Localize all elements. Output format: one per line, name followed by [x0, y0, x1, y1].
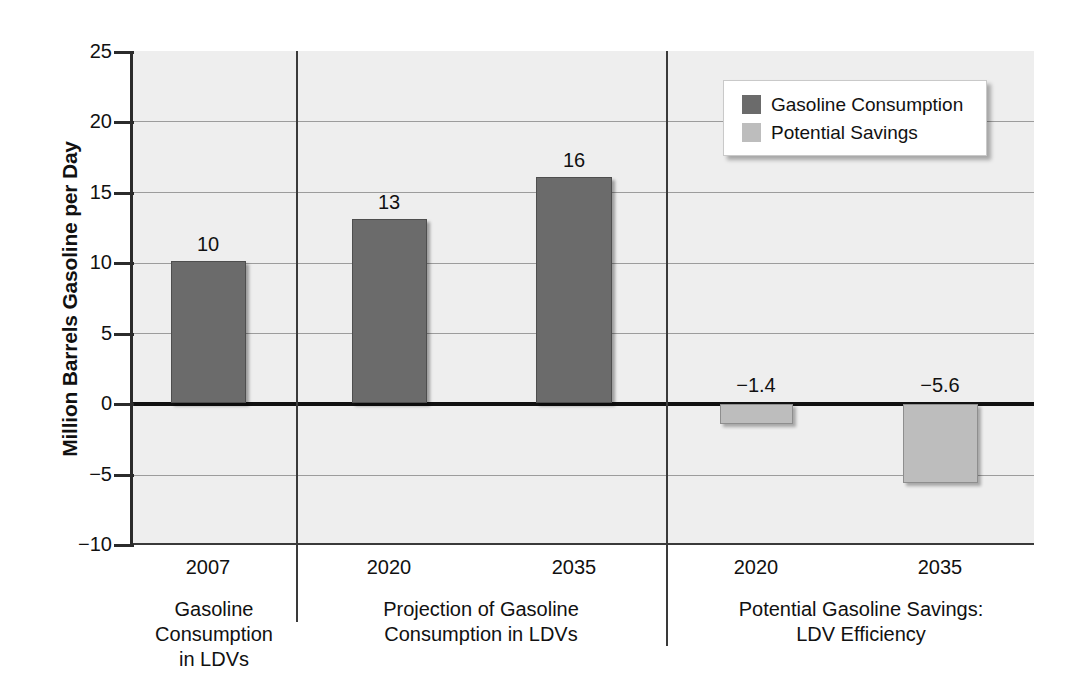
bar-2035-consumption — [536, 177, 612, 403]
bar-chart: Million Barrels Gasoline per Day 25 20 1… — [0, 0, 1075, 697]
y-tick-mark-minus5 — [114, 474, 134, 477]
legend-item-potential-savings[interactable]: Potential Savings — [724, 118, 986, 146]
y-tick-label-0: 0 — [42, 393, 112, 413]
x-group-label-line-1: Potential Gasoline Savings: — [671, 597, 1051, 622]
axis-bottom-line — [132, 543, 1034, 545]
x-tick-label-2035-savings: 2035 — [880, 556, 1000, 578]
bar-value-label-2020-consumption: 13 — [329, 192, 449, 212]
x-group-label-line-2: Consumption in LDVs — [301, 622, 661, 647]
x-tick-label-2020-savings: 2020 — [696, 556, 816, 578]
legend: Gasoline Consumption Potential Savings — [723, 80, 987, 156]
x-group-label-line-3: in LDVs — [136, 647, 292, 672]
x-group-label-line-1: Gasoline — [136, 597, 292, 622]
bar-2007-consumption — [171, 261, 246, 403]
y-tick-label-25: 25 — [42, 41, 112, 61]
bar-2020-savings — [720, 404, 793, 424]
x-group-label-projection-gasoline-consumption: Projection of Gasoline Consumption in LD… — [301, 597, 661, 647]
y-tick-label-20: 20 — [42, 111, 112, 131]
x-tick-label-2007: 2007 — [148, 556, 268, 578]
y-tick-label-15: 15 — [42, 182, 112, 202]
y-tick-mark-5 — [114, 333, 134, 336]
y-tick-label-5: 5 — [42, 323, 112, 343]
x-group-label-line-1: Projection of Gasoline — [301, 597, 661, 622]
x-group-label-line-2: Consumption — [136, 622, 292, 647]
group-separator-1 — [296, 51, 298, 622]
gridline-minus5 — [132, 475, 1034, 476]
y-tick-mark-10 — [114, 262, 134, 265]
legend-item-gasoline-consumption[interactable]: Gasoline Consumption — [724, 90, 986, 118]
x-group-label-line-2: LDV Efficiency — [671, 622, 1051, 647]
y-tick-mark-0 — [114, 403, 134, 406]
bar-value-label-2020-savings: −1.4 — [696, 375, 816, 395]
legend-label-consumption: Gasoline Consumption — [771, 95, 963, 114]
bar-2020-consumption — [352, 219, 427, 403]
bar-value-label-2035-consumption: 16 — [514, 150, 634, 170]
y-tick-mark-20 — [114, 121, 134, 124]
x-group-label-gasoline-consumption-ldvs: Gasoline Consumption in LDVs — [136, 597, 292, 672]
x-group-label-potential-gasoline-savings: Potential Gasoline Savings: LDV Efficien… — [671, 597, 1051, 647]
y-tick-mark-25 — [114, 51, 134, 54]
y-tick-label-10: 10 — [42, 252, 112, 272]
bar-2035-savings — [903, 404, 978, 483]
legend-swatch-icon-consumption — [742, 95, 761, 114]
y-tick-label-minus10: −10 — [42, 534, 112, 554]
x-tick-label-2035-consumption: 2035 — [514, 556, 634, 578]
x-tick-label-2020-consumption: 2020 — [329, 556, 449, 578]
y-tick-mark-15 — [114, 192, 134, 195]
group-separator-2 — [666, 51, 668, 646]
y-axis-spine — [130, 51, 133, 547]
legend-label-savings: Potential Savings — [771, 123, 918, 142]
y-tick-mark-minus10 — [114, 544, 134, 547]
y-tick-label-minus5: −5 — [42, 464, 112, 484]
legend-swatch-icon-savings — [742, 123, 761, 142]
bar-value-label-2007: 10 — [148, 234, 268, 254]
bar-value-label-2035-savings: −5.6 — [880, 375, 1000, 395]
